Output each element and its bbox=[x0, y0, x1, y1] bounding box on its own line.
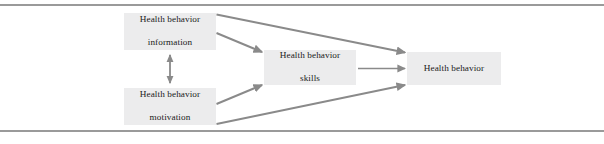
node-behavior-line1: Health behavior bbox=[407, 63, 501, 75]
node-information-line2: information bbox=[124, 37, 216, 49]
node-health-behavior-motivation: Health behavior motivation bbox=[124, 88, 216, 125]
edge-motivation-to-behavior bbox=[217, 85, 406, 124]
edge-motivation-to-skills bbox=[217, 85, 263, 104]
node-skills-line2: skills bbox=[264, 73, 356, 85]
node-information-line1: Health behavior bbox=[124, 14, 216, 26]
node-health-behavior-skills: Health behavior skills bbox=[264, 50, 356, 85]
figure-container: Health behavior information Health behav… bbox=[0, 0, 604, 144]
node-health-behavior-information: Health behavior information bbox=[124, 13, 216, 50]
node-motivation-line1: Health behavior bbox=[124, 89, 216, 101]
node-motivation-line2: motivation bbox=[124, 112, 216, 124]
edge-information-to-skills bbox=[217, 33, 263, 52]
edge-information-to-behavior bbox=[217, 15, 406, 53]
node-health-behavior: Health behavior bbox=[407, 52, 501, 85]
node-skills-line1: Health behavior bbox=[264, 50, 356, 62]
